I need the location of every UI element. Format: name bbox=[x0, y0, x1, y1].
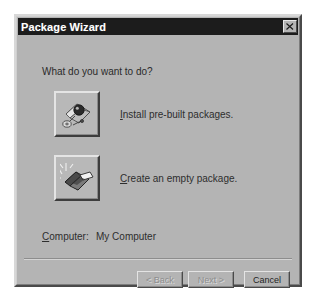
computer-value: My Computer bbox=[96, 231, 156, 242]
footer-divider bbox=[24, 258, 292, 260]
install-prebuilt-label: Install pre-built packages. bbox=[120, 109, 233, 120]
window-title: Package Wizard bbox=[21, 21, 283, 33]
computer-label-text: omputer: bbox=[49, 231, 88, 242]
cancel-button[interactable]: Cancel bbox=[244, 271, 290, 288]
next-button[interactable]: Next > bbox=[188, 271, 234, 288]
install-prebuilt-text: nstall pre-built packages. bbox=[123, 109, 234, 120]
package-wizard-dialog: Package Wizard What do you want to do? bbox=[14, 14, 302, 287]
create-empty-button[interactable] bbox=[54, 155, 100, 201]
prebuilt-packages-icon bbox=[60, 97, 94, 131]
wizard-button-bar: < Back Next > Cancel bbox=[137, 271, 290, 288]
computer-row: Computer:My Computer bbox=[42, 231, 156, 242]
create-empty-label: Create an empty package. bbox=[120, 173, 237, 184]
install-prebuilt-button[interactable] bbox=[54, 91, 100, 137]
computer-label: Computer: bbox=[42, 231, 96, 242]
option-create-empty[interactable]: Create an empty package. bbox=[54, 155, 237, 201]
prompt-text: What do you want to do? bbox=[42, 66, 153, 77]
close-button[interactable] bbox=[283, 20, 297, 33]
empty-package-icon bbox=[60, 161, 94, 195]
close-icon bbox=[286, 23, 294, 30]
title-bar: Package Wizard bbox=[18, 18, 298, 35]
back-button[interactable]: < Back bbox=[137, 271, 183, 288]
create-empty-text: reate an empty package. bbox=[127, 173, 237, 184]
dialog-body: What do you want to do? bbox=[18, 37, 298, 283]
option-install-prebuilt[interactable]: Install pre-built packages. bbox=[54, 91, 233, 137]
